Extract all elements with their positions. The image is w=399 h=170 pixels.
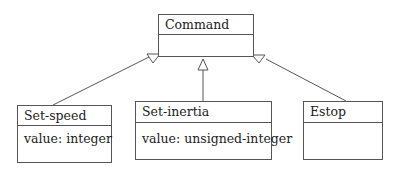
class-command: Command [158,14,254,57]
class-attributes [159,35,253,40]
edge-set-speed-command [53,55,153,105]
class-set-speed: Set-speed value: integer [17,105,112,163]
class-estop: Estop [303,101,383,160]
edge-estop-command [266,59,346,101]
class-name: Set-speed [18,106,111,126]
class-name: Command [159,15,253,35]
class-set-inertia: Set-inertia value: unsigned-integer [135,101,272,160]
class-name: Set-inertia [136,102,271,123]
class-name: Estop [304,102,382,123]
class-attribute: value: unsigned-integer [136,123,271,146]
class-attributes [304,123,382,128]
generalization-arrow-icon [198,59,208,70]
class-attribute: value: integer [18,126,111,146]
